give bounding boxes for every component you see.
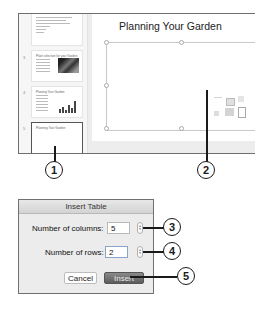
garden-photo-thumbnail bbox=[58, 58, 79, 73]
content-placeholder[interactable] bbox=[106, 42, 255, 131]
insert-button[interactable]: Insert bbox=[104, 272, 144, 284]
powerpoint-screenshot: 3 Plant selection for your Garden 4 Plan… bbox=[18, 13, 255, 154]
insert-table-icon[interactable] bbox=[214, 97, 222, 98]
columns-input[interactable]: 5 bbox=[107, 222, 130, 234]
stepper-down-icon[interactable]: ▼ bbox=[139, 228, 142, 231]
callout-4-pointer bbox=[143, 251, 165, 253]
callout-3: 3 bbox=[163, 218, 181, 236]
callout-2-pointer bbox=[206, 90, 208, 162]
stepper-down-icon[interactable]: ▼ bbox=[139, 252, 142, 255]
cancel-button[interactable]: Cancel bbox=[64, 272, 97, 284]
slide-thumbnail-5-selected[interactable]: Planning Your Garden bbox=[31, 122, 83, 154]
slide-thumbnail-2[interactable] bbox=[31, 13, 83, 46]
slide-number: 4 bbox=[23, 90, 25, 95]
callout-5-pointer bbox=[130, 276, 177, 278]
thumbnail-title: Planning Your Garden bbox=[36, 126, 65, 130]
columns-label: Number of columns: bbox=[32, 224, 104, 233]
callout-1-pointer bbox=[54, 146, 56, 162]
rows-label: Number of rows: bbox=[45, 248, 104, 257]
callout-3-pointer bbox=[143, 227, 165, 229]
insert-chart-icon[interactable] bbox=[226, 98, 235, 106]
slide-number: 5 bbox=[23, 126, 25, 131]
callout-5: 5 bbox=[177, 267, 195, 285]
slide-number: 3 bbox=[23, 55, 25, 60]
slide-title[interactable]: Planning Your Garden bbox=[119, 20, 222, 32]
resize-handle[interactable] bbox=[179, 40, 184, 45]
current-slide[interactable]: Planning Your Garden bbox=[92, 14, 255, 141]
resize-handle[interactable] bbox=[104, 83, 109, 88]
insert-online-picture-icon[interactable] bbox=[225, 108, 234, 116]
dialog-title: Insert Table bbox=[19, 200, 153, 214]
callout-4: 4 bbox=[163, 242, 181, 260]
resize-handle[interactable] bbox=[104, 40, 109, 45]
slide-editor: Planning Your Garden bbox=[88, 14, 255, 153]
slide-thumbnail-4[interactable]: Planting Your Garden bbox=[31, 86, 83, 118]
slide-thumbnail-pane[interactable]: 3 Plant selection for your Garden 4 Plan… bbox=[19, 14, 88, 153]
thumbnail-title: Planting Your Garden bbox=[36, 90, 65, 94]
content-icon-group bbox=[214, 95, 254, 125]
rows-input[interactable]: 2 bbox=[105, 246, 128, 258]
slide-thumbnail-3[interactable]: Plant selection for your Garden bbox=[31, 50, 83, 82]
resize-handle[interactable] bbox=[104, 126, 109, 131]
insert-smartart-icon[interactable] bbox=[238, 96, 244, 102]
bar-chart-thumbnail bbox=[59, 101, 76, 113]
insert-picture-icon[interactable] bbox=[214, 111, 219, 116]
callout-2: 2 bbox=[197, 161, 215, 179]
callout-1: 1 bbox=[45, 161, 63, 179]
insert-video-icon[interactable] bbox=[238, 107, 246, 118]
resize-handle[interactable] bbox=[179, 126, 184, 131]
insert-table-dialog: Insert Table Number of columns: 5 ▲ ▼ Nu… bbox=[18, 199, 154, 294]
